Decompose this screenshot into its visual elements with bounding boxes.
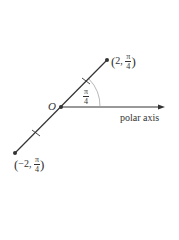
angle-denominator: 4 — [84, 97, 88, 106]
point-negative-r: −2 — [18, 158, 29, 169]
arrow-head-icon — [158, 105, 165, 110]
angle-arc — [89, 79, 100, 107]
point-positive-r: 2 — [115, 55, 120, 66]
point-positive — [105, 58, 109, 62]
point-negative-theta-den: 4 — [35, 165, 39, 174]
angle-numerator: π — [83, 87, 89, 97]
point-origin — [59, 105, 63, 109]
point-positive-theta-den: 4 — [126, 62, 130, 71]
point-positive-label: (2, π4) — [111, 52, 136, 71]
angle-label: π 4 — [83, 87, 89, 106]
origin-label: O — [48, 101, 56, 112]
point-negative-label: (−2, π4) — [14, 155, 44, 174]
polar-axis-label: polar axis — [120, 113, 159, 123]
